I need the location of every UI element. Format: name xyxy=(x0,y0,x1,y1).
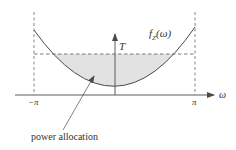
annotation-label: power allocation xyxy=(31,131,98,142)
annotation-pointer-arrow xyxy=(63,76,94,130)
x-tick-right-label: π xyxy=(192,97,197,107)
water-filling-diagram: fZ(ω) T ω −π π power allocation xyxy=(0,0,236,150)
power-allocation-region xyxy=(34,0,195,86)
x-axis-label: ω xyxy=(219,89,226,100)
x-tick-left-label: −π xyxy=(28,97,39,107)
curve-label: fZ(ω) xyxy=(149,27,171,42)
threshold-label: T xyxy=(119,40,126,52)
